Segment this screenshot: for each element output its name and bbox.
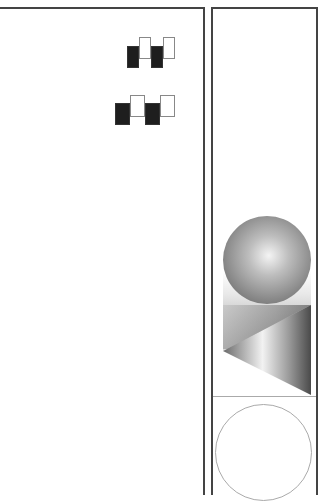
left-panel: [0, 7, 205, 495]
outline-circle-icon: [215, 404, 312, 501]
panel-divider: [213, 396, 316, 397]
light-block: [163, 37, 175, 59]
right-panel: [211, 7, 318, 495]
dark-block: [115, 103, 130, 125]
shaded-sphere-icon: [223, 216, 311, 304]
dark-block: [145, 103, 160, 125]
dark-block: [151, 46, 163, 68]
shaded-prism-icon: [223, 305, 313, 395]
light-block: [160, 95, 175, 117]
light-block: [130, 95, 145, 117]
dark-block: [127, 46, 139, 68]
light-block: [139, 37, 151, 59]
